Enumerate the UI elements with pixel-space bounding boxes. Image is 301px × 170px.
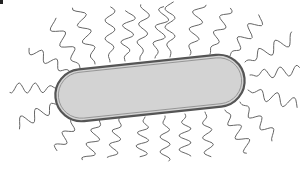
flagellum bbox=[160, 116, 170, 161]
flagellum bbox=[137, 5, 149, 60]
flagellum bbox=[82, 118, 101, 160]
cell bbox=[53, 52, 247, 124]
flagellum bbox=[240, 102, 274, 141]
flagellum bbox=[165, 2, 175, 57]
flagellum bbox=[136, 117, 148, 157]
flagellum bbox=[73, 8, 96, 64]
flagellum bbox=[189, 5, 206, 55]
flagellum bbox=[107, 117, 121, 157]
flagellum bbox=[210, 8, 232, 54]
flagellum bbox=[50, 18, 80, 68]
flagellum bbox=[105, 7, 115, 62]
flagellum bbox=[20, 102, 63, 129]
cell-wall-outer bbox=[53, 52, 247, 124]
flagellum bbox=[225, 110, 250, 153]
flagellum bbox=[179, 114, 191, 156]
bacterium-diagram bbox=[0, 0, 301, 170]
flagellum bbox=[121, 11, 135, 61]
flagellum bbox=[10, 83, 58, 93]
flagellum bbox=[250, 66, 300, 78]
flagellum bbox=[29, 48, 72, 74]
flagellum bbox=[153, 7, 169, 58]
flagellum bbox=[203, 112, 214, 157]
flagellum bbox=[248, 90, 297, 108]
